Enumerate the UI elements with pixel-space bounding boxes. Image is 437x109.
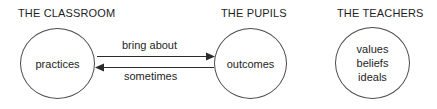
- node-pupils-circle: outcomes: [214, 28, 287, 99]
- edge-label-sometimes: sometimes: [124, 70, 177, 83]
- node-label-outcomes: outcomes: [227, 57, 275, 71]
- node-label-practices: practices: [35, 57, 79, 71]
- arrow-practices-to-outcomes: [97, 53, 215, 61]
- group-title-teachers: THE TEACHERS: [337, 7, 424, 20]
- arrow-left-head: [95, 64, 104, 72]
- node-classroom-circle: practices: [20, 28, 95, 99]
- node-teachers-circle: values beliefs ideals: [335, 27, 410, 99]
- group-title-classroom: THE CLASSROOM: [18, 7, 115, 20]
- node-label-teachers-stack: values beliefs ideals: [357, 42, 389, 84]
- node-label-ideals: ideals: [358, 70, 387, 84]
- group-title-pupils: THE PUPILS: [221, 7, 287, 20]
- relationship-diagram: THE CLASSROOM THE PUPILS THE TEACHERS pr…: [0, 0, 437, 109]
- edge-label-bring-about: bring about: [122, 39, 177, 52]
- node-label-beliefs: beliefs: [357, 56, 389, 70]
- node-label-values: values: [357, 42, 389, 56]
